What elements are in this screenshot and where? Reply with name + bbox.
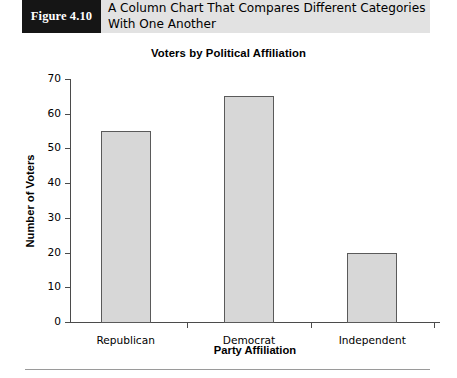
y-axis-tick: 50 — [65, 148, 70, 149]
footer-divider — [25, 369, 430, 370]
y-axis-tick: 60 — [65, 114, 70, 115]
figure-number-label: Figure 4.10 — [22, 0, 101, 33]
column-chart: Voters by Political Affiliation Number o… — [0, 33, 457, 363]
bar — [347, 253, 397, 323]
bar — [101, 131, 151, 323]
plot-area: 010203040506070 RepublicanDemocratIndepe… — [70, 79, 440, 322]
figure-header: Figure 4.10 A Column Chart That Compares… — [22, 0, 430, 33]
bar — [224, 96, 274, 323]
y-axis-tick-label: 10 — [48, 280, 61, 293]
y-axis-tick: 30 — [65, 218, 70, 219]
y-axis-title-text: Number of Voters — [24, 154, 36, 247]
figure-number-box: Figure 4.10 — [22, 0, 101, 33]
x-axis-tick — [311, 323, 312, 328]
y-axis-tick-label: 60 — [48, 107, 61, 120]
y-axis-line — [70, 79, 71, 323]
y-axis-tick-label: 30 — [48, 211, 61, 224]
y-axis-tick-label: 20 — [48, 246, 61, 259]
figure-caption-text: A Column Chart That Compares Different C… — [108, 1, 426, 32]
y-axis-tick: 10 — [65, 287, 70, 288]
y-axis-tick-label: 40 — [48, 176, 61, 189]
y-axis-tick: 20 — [65, 253, 70, 254]
x-axis-tick — [187, 323, 188, 328]
y-axis-tick: 40 — [65, 183, 70, 184]
y-axis-tick-label: 0 — [54, 315, 61, 328]
y-axis-tick: 0 — [65, 322, 70, 323]
y-axis-tick-label: 70 — [48, 72, 61, 85]
chart-title: Voters by Political Affiliation — [0, 47, 457, 59]
y-axis-tick: 70 — [65, 79, 70, 80]
x-axis-tick — [434, 323, 435, 328]
y-axis-title: Number of Voters — [22, 79, 38, 322]
x-axis-title: Party Affiliation — [70, 344, 440, 356]
y-axis-tick-label: 50 — [48, 141, 61, 154]
